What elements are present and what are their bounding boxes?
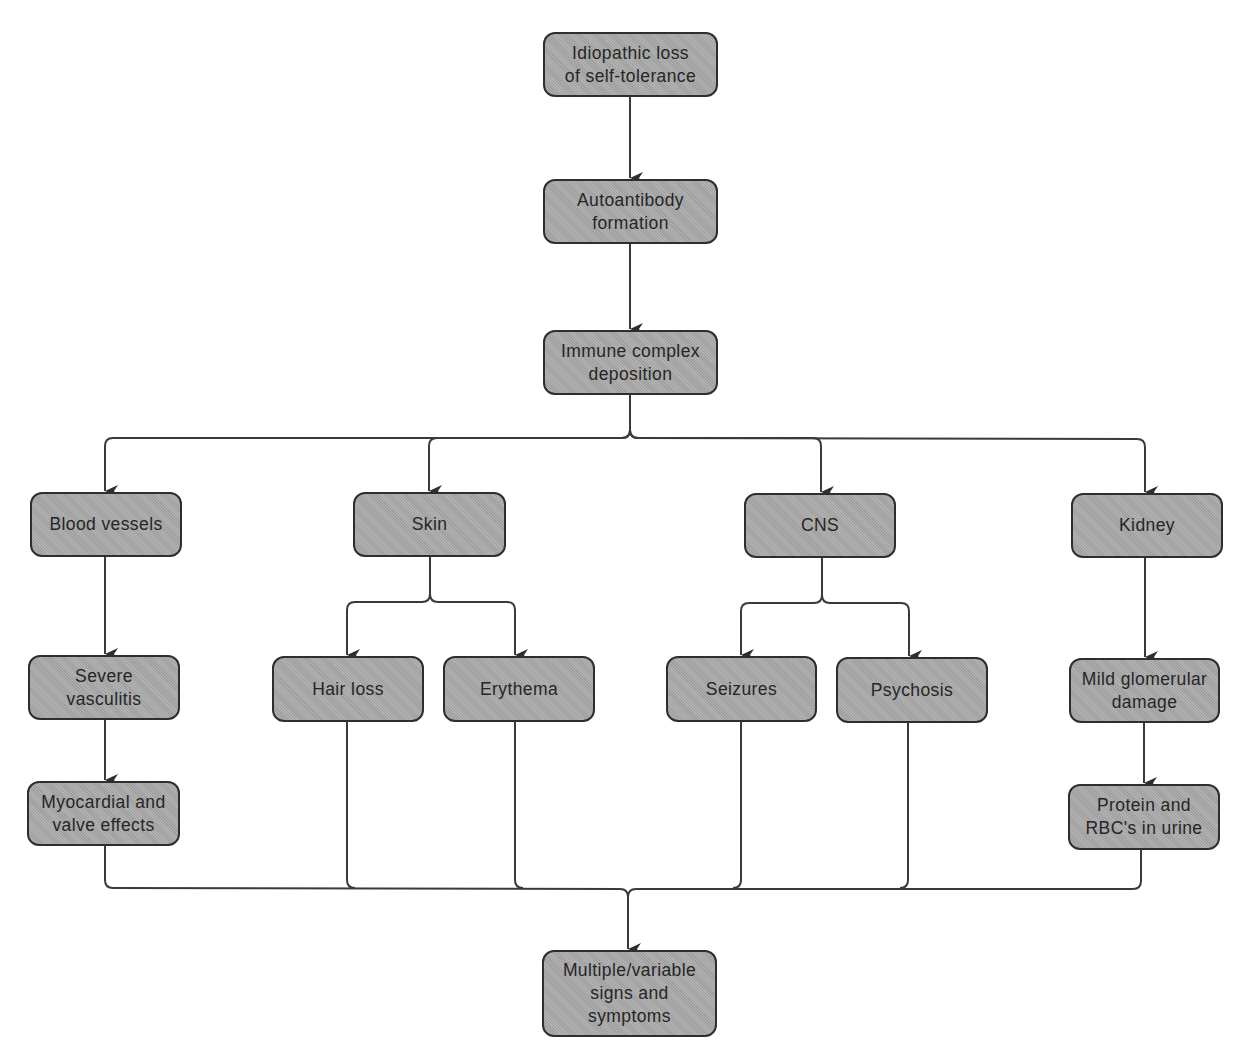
line-erythema-to-outcome xyxy=(515,721,523,888)
arrow-immune-to-blood-vessels xyxy=(105,394,630,491)
line-myocardial-to-outcome xyxy=(105,845,628,949)
node-autoantibody-formation: Autoantibody formation xyxy=(543,179,718,244)
node-erythema: Erythema xyxy=(443,656,595,722)
node-idiopathic-loss-of-self-tolerance: Idiopathic loss of self-tolerance xyxy=(543,32,718,97)
node-severe-vasculitis: Severe vasculitis xyxy=(28,655,180,720)
connector-lines xyxy=(0,0,1250,1055)
flowchart: Idiopathic loss of self-tolerance Autoan… xyxy=(0,0,1250,1055)
node-protein-and-rbcs-in-urine: Protein and RBC's in urine xyxy=(1068,784,1220,850)
arrow-skin-to-hair-loss xyxy=(347,556,430,655)
node-skin: Skin xyxy=(353,492,506,557)
node-multiple-variable-signs-and-symptoms: Multiple/variable signs and symptoms xyxy=(542,950,717,1037)
line-protein-to-outcome xyxy=(628,849,1141,897)
arrow-cns-to-seizures xyxy=(741,557,822,655)
arrow-cns-to-psychosis xyxy=(822,595,909,656)
node-myocardial-and-valve-effects: Myocardial and valve effects xyxy=(27,781,180,846)
arrow-immune-to-skin xyxy=(429,430,630,491)
node-immune-complex-deposition: Immune complex deposition xyxy=(543,330,718,395)
node-cns: CNS xyxy=(744,493,896,558)
node-blood-vessels: Blood vessels xyxy=(30,492,182,557)
line-hair-loss-to-outcome xyxy=(347,721,355,888)
node-psychosis: Psychosis xyxy=(836,657,988,723)
node-kidney: Kidney xyxy=(1071,493,1223,558)
line-seizures-to-outcome xyxy=(733,721,741,888)
node-hair-loss: Hair loss xyxy=(272,656,424,722)
node-mild-glomerular-damage: Mild glomerular damage xyxy=(1069,658,1220,723)
arrow-immune-to-kidney xyxy=(630,430,1145,492)
arrow-skin-to-erythema xyxy=(430,594,515,655)
node-seizures: Seizures xyxy=(666,656,817,722)
line-psychosis-to-outcome xyxy=(900,722,908,888)
